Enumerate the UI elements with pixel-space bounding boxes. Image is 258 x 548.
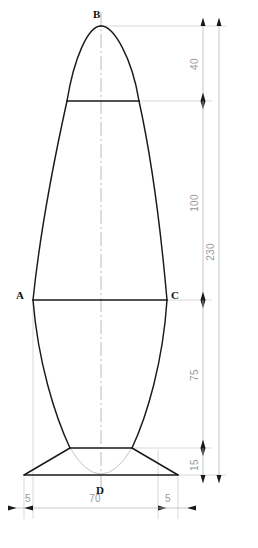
upper-body-right-curve bbox=[139, 101, 167, 300]
dim-label-left-5: 5 bbox=[25, 493, 31, 504]
vertical-dimension-labels: 40 100 75 15 230 bbox=[189, 58, 216, 471]
dim-label-70: 70 bbox=[89, 493, 101, 504]
dim-label-40: 40 bbox=[189, 58, 200, 70]
upper-body-left-curve bbox=[33, 101, 67, 300]
dim-label-15: 15 bbox=[189, 459, 200, 471]
point-label-C: C bbox=[171, 289, 179, 301]
point-labels: B A C D bbox=[16, 8, 179, 496]
horizontal-dimension-labels: 5 70 5 bbox=[25, 493, 171, 504]
lower-body-right-curve bbox=[132, 300, 167, 448]
extension-lines bbox=[24, 26, 226, 519]
drawing-canvas: B A C D 40 100 75 15 230 5 70 5 bbox=[0, 0, 258, 548]
technical-drawing-svg: B A C D 40 100 75 15 230 5 70 5 bbox=[0, 0, 258, 548]
base-skirt-right bbox=[132, 448, 178, 475]
dim-label-100: 100 bbox=[189, 194, 200, 212]
dim-label-right-5: 5 bbox=[165, 493, 171, 504]
nose-right-curve bbox=[101, 26, 139, 101]
nose-left-curve bbox=[67, 26, 101, 101]
point-label-A: A bbox=[16, 289, 24, 301]
dim-label-230: 230 bbox=[205, 243, 216, 261]
lower-body-left-curve bbox=[33, 300, 70, 448]
base-skirt-left bbox=[24, 448, 70, 475]
dim-label-75: 75 bbox=[189, 369, 200, 381]
point-label-B: B bbox=[93, 8, 101, 20]
